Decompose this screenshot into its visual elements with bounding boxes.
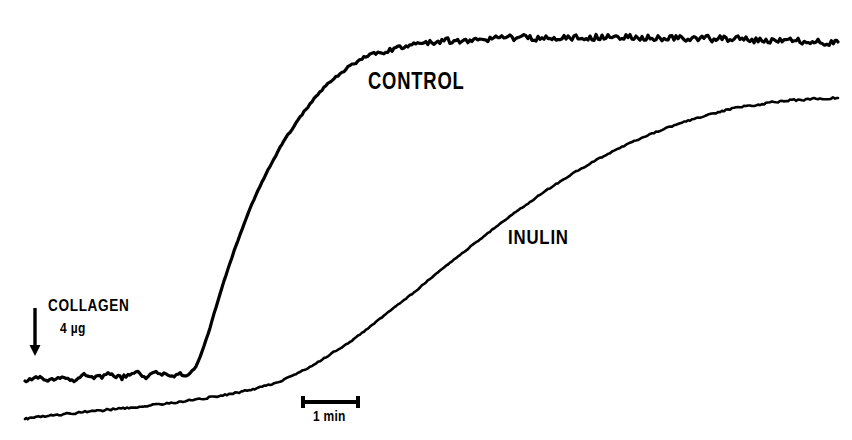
collagen-dose-label: 4 µg	[60, 320, 86, 335]
series-label-inulin: INULIN	[508, 226, 569, 247]
trace-canvas	[0, 0, 852, 440]
series-label-control: CONTROL	[368, 70, 465, 93]
scalebar-label: 1 min	[313, 408, 346, 423]
aggregometry-figure: CONTROL INULIN COLLAGEN 4 µg 1 min	[0, 0, 852, 440]
curve-inulin	[25, 97, 838, 419]
collagen-arrow-icon	[30, 308, 41, 356]
collagen-stimulus-label: COLLAGEN	[48, 297, 129, 314]
